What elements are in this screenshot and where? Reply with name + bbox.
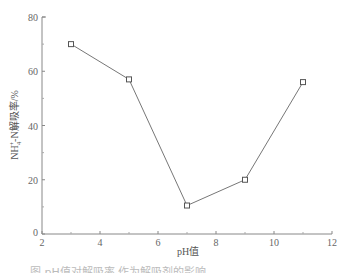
x-tick-label: 4 [98, 237, 103, 248]
x-tick-label: 2 [40, 237, 45, 248]
series-line [71, 44, 303, 205]
square-marker-icon [301, 80, 306, 85]
line-chart: 24681012 020406080 pH值 NH4+-N解吸率/% [0, 0, 347, 273]
square-marker-icon [127, 77, 132, 82]
axes [42, 17, 332, 234]
y-tick-label: 20 [28, 175, 38, 186]
figure-caption: 图 pH值对解吸率 作为解吸剂的影响 [30, 266, 330, 273]
data-series [69, 42, 306, 208]
square-marker-icon [69, 42, 74, 47]
y-tick-label: 40 [28, 121, 38, 132]
square-marker-icon [185, 203, 190, 208]
x-axis-title: pH值 [177, 245, 199, 257]
x-tick-label: 6 [156, 237, 161, 248]
x-tick-label: 12 [327, 237, 337, 248]
x-tick-label: 10 [269, 237, 279, 248]
x-tick-label: 8 [214, 237, 219, 248]
square-marker-icon [243, 177, 248, 182]
y-tick-label: 0 [33, 227, 38, 238]
y-tick-label: 80 [28, 12, 38, 23]
y-tick-label: 60 [28, 66, 38, 77]
y-axis-title: NH4+-N解吸率/% [8, 90, 23, 160]
